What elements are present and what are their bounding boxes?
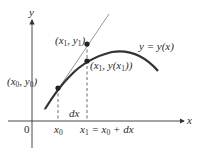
y-axis-label: y — [28, 6, 34, 18]
label-x1-y1: (x1, y1) — [55, 34, 85, 48]
curve-label: y = y(x) — [138, 40, 174, 53]
point-x1-yx1 — [84, 58, 89, 63]
tick-x0: x0 — [53, 123, 63, 137]
point-x0-y0 — [55, 85, 60, 90]
x-axis-label: x — [186, 114, 192, 126]
label-x1-yx1: (x1, y(x1)) — [90, 59, 133, 73]
tangent-diagram: y x 0 y = y(x) (x1, y1) (x1, y(x1)) (x0,… — [0, 0, 201, 154]
tick-x1: x1 = x0 + dx — [79, 123, 134, 137]
point-x1-y1 — [84, 41, 89, 46]
label-x0-y0: (x0, y0) — [7, 75, 37, 89]
origin-label: 0 — [24, 123, 30, 135]
dx-label: dx — [69, 107, 80, 119]
